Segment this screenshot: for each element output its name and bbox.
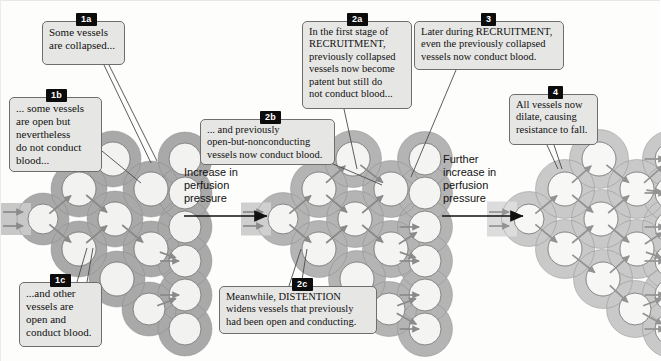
callout-3: 3Later during RECRUITMENT, even the prev… [414, 21, 564, 70]
callout-1c: 1c...and other vessels are open and cond… [19, 282, 102, 347]
callout-badge-2a: 2a [347, 13, 368, 26]
callout-2c: 2cMeanwhile, DISTENTION widens vessels t… [219, 286, 377, 334]
leader-line-10 [547, 145, 558, 169]
callout-text-2c: Meanwhile, DISTENTION widens vessels tha… [226, 291, 370, 328]
leader-line-4 [87, 248, 93, 282]
callout-badge-4: 4 [548, 86, 563, 99]
leader-line-3 [77, 248, 87, 282]
callout-text-1a: Some vessels are collapsed... [49, 26, 118, 52]
callout-text-2a: In the first stage of RECRUITMENT, previ… [309, 26, 405, 100]
callout-text-2b: ... and previously open-but-nonconductin… [207, 124, 328, 161]
callout-1b: 1b... some vessels are open but neverthe… [9, 97, 102, 172]
callout-badge-3: 3 [481, 13, 496, 26]
callout-text-1c: ...and other vessels are open and conduc… [26, 287, 95, 339]
leader-line-9 [411, 70, 456, 177]
callout-2b: 2b... and previously open-but-nonconduct… [200, 119, 335, 165]
leader-line-5 [344, 109, 357, 169]
callout-text-3: Later during RECRUITMENT, even the previ… [421, 26, 557, 63]
callout-4: 4All vessels now dilate, causing resista… [509, 94, 598, 145]
leader-line-1 [108, 63, 157, 161]
leader-line-11 [554, 145, 562, 169]
callout-text-4: All vessels now dilate, causing resistan… [516, 99, 591, 136]
leader-line-2 [102, 151, 141, 183]
callout-badge-2c: 2c [292, 278, 313, 291]
callout-text-1b: ... some vessels are open but neverthele… [16, 102, 95, 167]
callout-1a: 1aSome vessels are collapsed... [42, 21, 125, 65]
callout-badge-1b: 1b [46, 89, 67, 102]
callout-badge-1a: 1a [76, 13, 97, 26]
callout-2a: 2aIn the first stage of RECRUITMENT, pre… [302, 21, 412, 109]
leader-line-0 [104, 65, 151, 163]
callout-badge-1c: 1c [50, 274, 71, 287]
callout-badge-2b: 2b [260, 111, 281, 124]
